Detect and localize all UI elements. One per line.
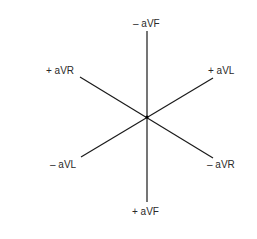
label-negative-avl: – aVL bbox=[50, 159, 76, 171]
label-positive-avr: + aVR bbox=[46, 65, 74, 77]
lead-axes bbox=[0, 0, 257, 239]
hexaxial-diagram: – aVF + aVR + aVL – aVL – aVR + aVF bbox=[0, 0, 257, 239]
label-negative-avr: – aVR bbox=[207, 159, 235, 171]
label-negative-avf: – aVF bbox=[133, 18, 160, 30]
label-positive-avl: + aVL bbox=[208, 65, 234, 77]
center-point bbox=[145, 115, 148, 118]
label-positive-avf: + aVF bbox=[132, 206, 159, 218]
